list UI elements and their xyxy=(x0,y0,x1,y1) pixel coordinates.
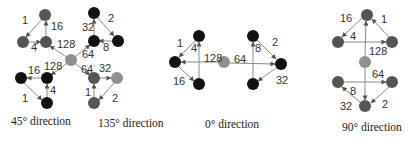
edge-label: 16 xyxy=(340,12,352,24)
node xyxy=(41,72,53,84)
edge-label: 4 xyxy=(350,30,356,42)
edge-label: 2 xyxy=(382,98,388,110)
node xyxy=(111,72,123,84)
edge-label: 2 xyxy=(108,12,114,24)
node xyxy=(193,78,205,90)
edge-label: 8 xyxy=(103,41,109,53)
node xyxy=(88,7,100,19)
node xyxy=(386,36,398,48)
panel-0: 1 4 128 64 8 2 16 32 0° direction xyxy=(169,30,288,130)
edge-label: 64 xyxy=(82,48,94,60)
node xyxy=(17,36,29,48)
edge-label: 2 xyxy=(272,36,278,48)
edge-label: 32 xyxy=(82,21,94,33)
edge-label: 64 xyxy=(372,68,384,80)
panel-90: 16 1 4 128 64 8 32 2 90° direction xyxy=(332,9,402,133)
node xyxy=(386,76,398,88)
direction-diagram: 1 16 4 128 32 2 64 8 16 128 4 1 64 32 1 … xyxy=(0,0,412,141)
edge-label: 8 xyxy=(350,85,356,97)
node xyxy=(359,100,371,112)
node xyxy=(169,56,181,68)
edge-label: 1 xyxy=(381,13,387,25)
caption-45: 45° direction xyxy=(11,115,71,127)
node xyxy=(88,35,100,47)
edge-label: 32 xyxy=(99,62,111,74)
node xyxy=(112,35,124,47)
caption-0: 0° direction xyxy=(205,118,259,130)
edge-label: 1 xyxy=(22,14,28,26)
edge-label: 128 xyxy=(44,60,62,72)
caption-90: 90° direction xyxy=(342,121,402,133)
edge-label: 1 xyxy=(22,92,28,104)
edge-label: 64 xyxy=(81,63,93,75)
edge-label: 2 xyxy=(112,92,118,104)
edge-label: 16 xyxy=(51,20,63,32)
edge-label: 128 xyxy=(369,45,387,57)
node xyxy=(39,9,51,21)
node xyxy=(361,9,373,21)
edge-label: 128 xyxy=(57,38,75,50)
edge-label: 4 xyxy=(191,42,197,54)
edge-label: 128 xyxy=(204,52,222,64)
edge-label: 16 xyxy=(173,75,185,87)
node xyxy=(15,72,27,84)
edge-label: 1 xyxy=(85,86,91,98)
edge-label: 64 xyxy=(234,53,246,65)
node xyxy=(332,76,344,88)
center-node xyxy=(359,56,371,68)
edge-label: 4 xyxy=(31,41,37,53)
node xyxy=(332,36,344,48)
panel-45-135: 1 16 4 128 32 2 64 8 16 128 4 1 64 32 1 … xyxy=(11,7,164,129)
node xyxy=(275,58,287,70)
edge-label: 16 xyxy=(28,64,40,76)
caption-135: 135° direction xyxy=(98,117,164,129)
edge-label: 4 xyxy=(50,84,56,96)
edge-label: 1 xyxy=(177,37,183,49)
node xyxy=(88,97,100,109)
node xyxy=(40,36,52,48)
center-node xyxy=(65,54,77,66)
edge-label: 8 xyxy=(255,42,261,54)
edge-label: 32 xyxy=(276,74,288,86)
node xyxy=(41,97,53,109)
edge-label: 32 xyxy=(340,100,352,112)
node xyxy=(247,78,259,90)
node xyxy=(193,30,205,42)
node xyxy=(247,30,259,42)
